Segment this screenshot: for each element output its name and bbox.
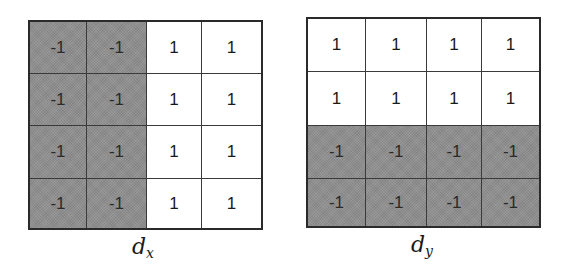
caption-subscript: y [425, 243, 433, 259]
kernel-dx-cell: -1 [30, 126, 87, 179]
kernel-dx-cell: 1 [147, 179, 202, 228]
kernel-dx-grid: -1 -1 1 1 -1 -1 1 1 -1 -1 1 1 -1 -1 1 1 [28, 20, 263, 230]
kernel-dx-caption: dx [132, 234, 154, 261]
kernel-dx-cell: 1 [147, 22, 202, 74]
kernel-dy-cell: -1 [366, 179, 427, 226]
caption-base: d [411, 232, 425, 257]
kernel-dx-cell: -1 [87, 179, 147, 228]
kernel-dx-cell: 1 [202, 22, 261, 74]
kernel-dx-cell: 1 [202, 126, 261, 179]
kernel-dx-cell: -1 [30, 22, 87, 74]
kernel-dx-cell: 1 [147, 126, 202, 179]
kernel-dx-cell: -1 [30, 179, 87, 228]
kernel-dy-cell: 1 [308, 72, 366, 126]
kernel-dx-cell: 1 [202, 179, 261, 228]
caption-base: d [132, 234, 146, 259]
kernel-dy-cell: -1 [366, 126, 427, 179]
kernel-dx-cell: -1 [87, 126, 147, 179]
kernel-dy-cell: 1 [482, 19, 539, 72]
kernel-dy-cell: -1 [427, 179, 482, 226]
kernel-dy-cell: 1 [308, 19, 366, 72]
kernel-dx-cell: -1 [87, 74, 147, 126]
kernel-dx-cell: 1 [147, 74, 202, 126]
kernel-dy-cell: -1 [482, 179, 539, 226]
kernel-dx-cell: 1 [202, 74, 261, 126]
kernel-dy-cell: 1 [366, 72, 427, 126]
kernel-dy-cell: -1 [308, 179, 366, 226]
kernel-dy-cell: -1 [427, 126, 482, 179]
kernel-dy-cell: 1 [482, 72, 539, 126]
kernel-dx-cell: -1 [30, 74, 87, 126]
kernel-dy-grid: 1 1 1 1 1 1 1 1 -1 -1 -1 -1 -1 -1 -1 -1 [306, 17, 541, 228]
kernel-dy-cell: -1 [308, 126, 366, 179]
kernel-dx-cell: -1 [87, 22, 147, 74]
kernel-dy-cell: 1 [427, 19, 482, 72]
kernel-dy-cell: 1 [427, 72, 482, 126]
kernel-dy-cell: -1 [482, 126, 539, 179]
kernel-dy-cell: 1 [366, 19, 427, 72]
caption-subscript: x [146, 245, 154, 261]
kernel-dy-caption: dy [411, 232, 433, 259]
